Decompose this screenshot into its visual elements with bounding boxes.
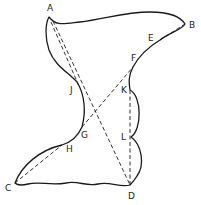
label-l: L bbox=[121, 132, 126, 142]
label-h: H bbox=[66, 144, 73, 154]
label-e: E bbox=[148, 33, 154, 43]
segment-g-f bbox=[82, 67, 133, 127]
shape-outline bbox=[15, 12, 185, 186]
segment-c-h bbox=[15, 145, 62, 183]
geometric-diagram: A B E F K J G L H C D bbox=[0, 0, 201, 205]
label-d: D bbox=[128, 191, 135, 201]
point-labels: A B E F K J G L H C D bbox=[5, 3, 195, 201]
label-j: J bbox=[69, 85, 73, 95]
label-b: B bbox=[189, 20, 195, 30]
label-a: A bbox=[47, 3, 54, 13]
label-k: K bbox=[121, 85, 128, 95]
segment-a-j bbox=[51, 22, 79, 86]
label-g: G bbox=[81, 130, 88, 140]
dashed-chords bbox=[15, 21, 185, 185]
label-f: F bbox=[131, 53, 136, 63]
label-c: C bbox=[5, 183, 11, 193]
segment-a-d bbox=[53, 21, 130, 185]
